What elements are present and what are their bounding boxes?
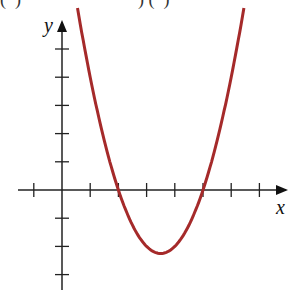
x-axis-label: x	[275, 196, 285, 218]
parabola-graph: y x	[0, 0, 299, 305]
parabola-curve	[78, 8, 244, 253]
y-axis-label: y	[42, 14, 53, 37]
